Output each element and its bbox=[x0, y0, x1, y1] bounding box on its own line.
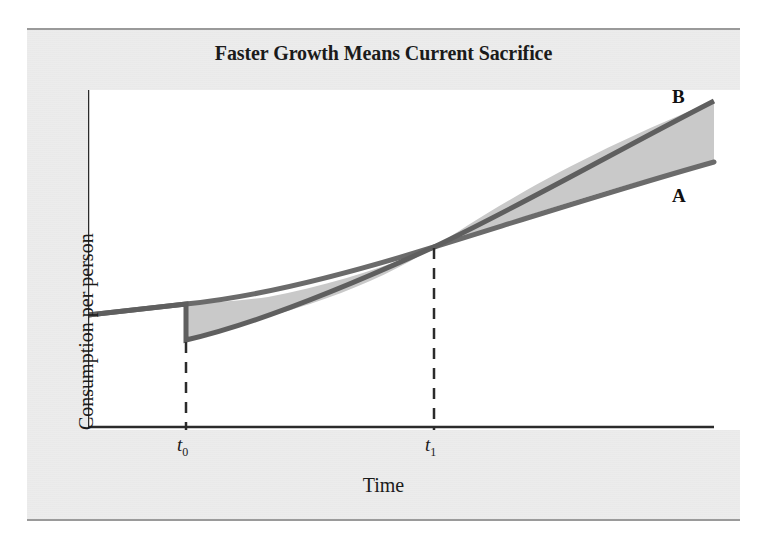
curve-label-a: A bbox=[672, 185, 686, 207]
figure-panel: Faster Growth Means Current Sacrifice bbox=[27, 28, 740, 521]
curve-b bbox=[88, 101, 714, 340]
x-tick-label-t0: t0 bbox=[177, 434, 188, 460]
consumption-growth-plot bbox=[88, 90, 741, 430]
plot-area bbox=[88, 90, 741, 430]
curve-label-b: B bbox=[672, 86, 685, 108]
chart-title: Faster Growth Means Current Sacrifice bbox=[27, 42, 740, 65]
y-axis-label: Consumption per person bbox=[75, 233, 98, 430]
tick-t0-subscript: 0 bbox=[182, 445, 188, 459]
x-axis-label: Time bbox=[27, 474, 740, 497]
tick-t1-subscript: 1 bbox=[430, 445, 436, 459]
x-tick-label-t1: t1 bbox=[425, 434, 436, 460]
region-sacrifice bbox=[186, 247, 434, 340]
